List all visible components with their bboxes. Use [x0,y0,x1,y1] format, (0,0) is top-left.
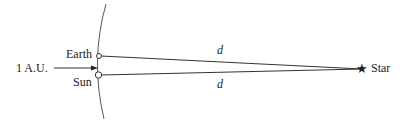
earth-label: Earth [66,48,92,60]
distance-top-label: d [217,44,223,56]
sun-label: Sun [73,76,92,88]
star-label: Star [371,62,390,74]
earth-marker-icon [97,54,102,59]
orbit-arc [97,4,106,119]
star-icon: ★ [356,62,368,75]
sun-marker-icon [95,72,101,78]
parallax-diagram: Earth Sun 1 A.U. d d ★ Star [0,0,407,121]
diagram-canvas [0,0,407,121]
au-arrowhead-icon [91,66,98,71]
sun-star-line [101,69,362,75]
distance-bottom-label: d [217,78,223,90]
baseline-label: 1 A.U. [16,62,48,74]
earth-star-line [101,56,362,69]
